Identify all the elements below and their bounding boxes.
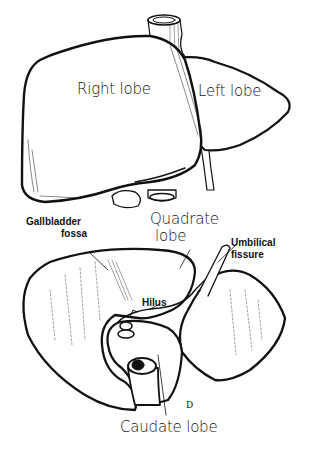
cropped-caption-strip bbox=[0, 441, 309, 451]
label-caudate-lobe: Caudate lobe bbox=[120, 418, 217, 436]
label-hilus: Hilus bbox=[142, 297, 166, 308]
artist-signature: D bbox=[186, 400, 193, 410]
label-fissure: fissure bbox=[231, 249, 264, 260]
label-left-lobe: Left lobe bbox=[198, 82, 261, 100]
label-gallbladder: Gallbladder bbox=[26, 216, 81, 227]
liver-anterior-view bbox=[22, 15, 290, 208]
liver-inferior-view bbox=[23, 245, 285, 415]
label-lobe: lobe bbox=[155, 227, 186, 245]
label-fossa: fossa bbox=[61, 228, 87, 239]
label-quadrate: Quadrate bbox=[150, 210, 219, 228]
label-umbilical: Umbilical bbox=[231, 237, 275, 248]
label-right-lobe: Right lobe bbox=[77, 80, 151, 98]
